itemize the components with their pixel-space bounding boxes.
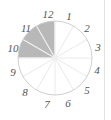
clock-numeral-9: 9 xyxy=(10,67,16,78)
clock-numeral-5: 5 xyxy=(84,85,90,96)
clock-numeral-6: 6 xyxy=(65,98,71,109)
clock-numeral-1: 1 xyxy=(66,11,72,22)
clock-numeral-4: 4 xyxy=(94,65,100,76)
clock-sector-figure: 12 1 2 3 4 5 6 7 8 9 10 11 xyxy=(0,0,111,120)
clock-numeral-2: 2 xyxy=(84,23,90,34)
clock-face-svg xyxy=(0,0,111,120)
clock-numeral-12: 12 xyxy=(43,9,54,20)
clock-numeral-8: 8 xyxy=(22,87,28,98)
clock-numeral-10: 10 xyxy=(8,43,19,54)
clock-numeral-7: 7 xyxy=(44,99,50,110)
right-divider-rule xyxy=(104,0,105,120)
clock-numeral-11: 11 xyxy=(21,23,31,34)
clock-numeral-3: 3 xyxy=(95,42,101,53)
